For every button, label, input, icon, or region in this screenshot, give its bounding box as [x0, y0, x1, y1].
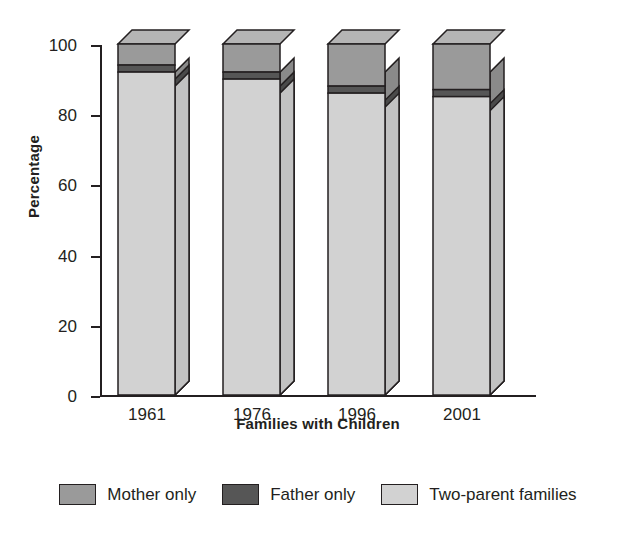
- legend-label-mother-only: Mother only: [107, 485, 196, 505]
- y-tick-80: 80: [91, 115, 100, 117]
- y-tick-20: 20: [91, 326, 100, 328]
- legend-label-father-only: Father only: [270, 485, 355, 505]
- bar-1961-segment-father-only: [118, 65, 175, 72]
- bar-chart: Percentage 100 80 60 40 20 0: [0, 0, 636, 541]
- bar-2001-top-face: [433, 30, 504, 44]
- bar-1996-segment-mother-only: [328, 44, 385, 86]
- legend-item-father-only: Father only: [222, 484, 355, 505]
- bar-1976-side-two-parent: [280, 79, 294, 395]
- legend-swatch-mother-only: [59, 484, 96, 505]
- y-tick-label-0: 0: [17, 388, 77, 405]
- legend-item-two-parent-families: Two-parent families: [381, 484, 576, 505]
- bar-1976-segment-mother-only: [223, 44, 280, 72]
- bar-1976-segment-two-parent: [223, 79, 280, 395]
- bar-1996-top-face: [328, 30, 399, 44]
- bar-1976-segment-father-only: [223, 72, 280, 79]
- bar-1996-side-two-parent: [385, 93, 399, 395]
- bar-1961-top-face: [118, 30, 189, 44]
- legend-swatch-father-only: [222, 484, 259, 505]
- y-tick-label-100: 100: [17, 37, 77, 54]
- y-tick-label-40: 40: [17, 248, 77, 265]
- bar-2001-segment-two-parent: [433, 97, 490, 395]
- bar-2001: [433, 44, 490, 395]
- x-axis-title: Families with Children: [0, 415, 636, 432]
- y-tick-40: 40: [91, 256, 100, 258]
- y-tick-label-20: 20: [17, 318, 77, 335]
- legend-item-mother-only: Mother only: [59, 484, 196, 505]
- chart-legend: Mother only Father only Two-parent famil…: [0, 484, 636, 505]
- legend-swatch-two-parent-families: [381, 484, 418, 505]
- bar-1976: [223, 44, 280, 395]
- bar-1961-segment-two-parent: [118, 72, 175, 395]
- y-tick-0: 0: [91, 396, 100, 398]
- bar-2001-segment-father-only: [433, 90, 490, 97]
- legend-label-two-parent-families: Two-parent families: [429, 485, 576, 505]
- bar-1996-segment-father-only: [328, 86, 385, 93]
- bar-2001-side-two-parent: [490, 97, 504, 395]
- y-tick-label-80: 80: [17, 107, 77, 124]
- bar-2001-segment-mother-only: [433, 44, 490, 90]
- y-tick-label-60: 60: [17, 177, 77, 194]
- y-tick-100: 100: [91, 45, 100, 47]
- y-tick-60: 60: [91, 185, 100, 187]
- bar-1961: [118, 44, 175, 395]
- plot-area: 100 80 60 40 20 0: [100, 30, 540, 400]
- bar-1996: [328, 44, 385, 395]
- bar-1976-top-face: [223, 30, 294, 44]
- y-axis-line: [100, 45, 102, 396]
- bar-1961-segment-mother-only: [118, 44, 175, 65]
- bar-1961-side-two-parent: [175, 72, 189, 395]
- bar-1996-segment-two-parent: [328, 93, 385, 395]
